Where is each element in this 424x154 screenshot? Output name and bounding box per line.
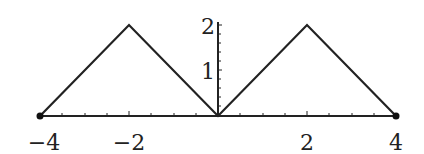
y-tick-label-2: 2	[201, 14, 215, 39]
endpoint-right-dot	[393, 113, 400, 120]
x-tick-label-neg2: −2	[113, 130, 145, 154]
plot-canvas: −4 −2 2 4 2 1	[0, 0, 424, 154]
x-tick-label-neg4: −4	[28, 130, 60, 154]
x-tick-label-2: 2	[300, 130, 314, 154]
endpoint-left-dot	[37, 113, 44, 120]
y-tick-label-1: 1	[201, 59, 215, 84]
x-tick-label-4: 4	[389, 130, 403, 154]
